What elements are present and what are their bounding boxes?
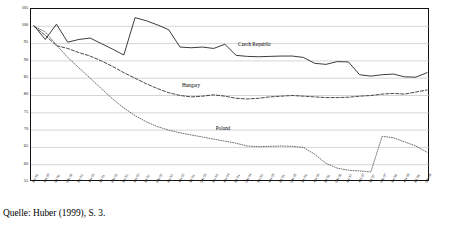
y-tick-label: 100 <box>2 23 28 27</box>
series-label-czech-republic: Czech Republic <box>238 42 271 47</box>
figure-container: 105100959085807570656055 Czech RepublicH… <box>0 0 454 227</box>
series-line-hungary <box>34 26 427 99</box>
series-label-poland: Poland <box>216 126 230 131</box>
y-tick-label: 55 <box>2 179 28 183</box>
y-tick-label: 80 <box>2 92 28 96</box>
y-tick-label: 65 <box>2 144 28 148</box>
y-tick-label: 105 <box>2 6 28 10</box>
y-tick-label: 75 <box>2 110 28 114</box>
y-tick-label: 85 <box>2 75 28 79</box>
y-tick-label: 95 <box>2 40 28 44</box>
series-line-poland <box>34 26 427 172</box>
chart-svg <box>31 9 430 182</box>
plot-area: Czech RepublicHungaryPoland <box>30 8 429 181</box>
series-label-hungary: Hungary <box>182 83 200 88</box>
y-tick-label: 70 <box>2 127 28 131</box>
x-axis: Jan 90Apr 90Jul 90Okt 90Jan 91Apr 91Jul … <box>30 182 429 204</box>
y-tick-label: 60 <box>2 162 28 166</box>
y-axis: 105100959085807570656055 <box>0 8 28 181</box>
y-tick-label: 90 <box>2 58 28 62</box>
source-caption: Quelle: Huber (1999), S. 3. <box>3 208 105 219</box>
